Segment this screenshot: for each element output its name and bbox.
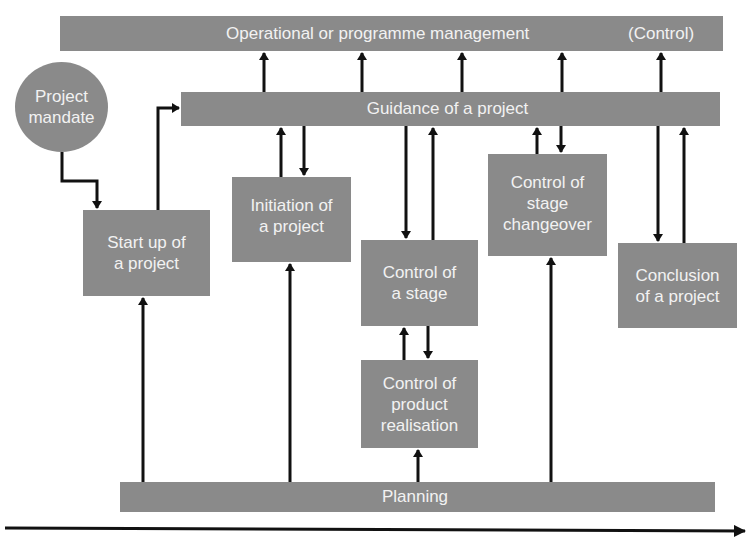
timeline-arrow bbox=[5, 528, 745, 531]
arrow-mandate-to-startup bbox=[62, 152, 97, 208]
connector-arrows bbox=[0, 0, 749, 549]
arrow-startup-to-guidance bbox=[158, 108, 179, 210]
